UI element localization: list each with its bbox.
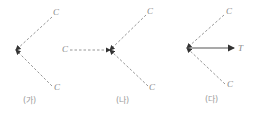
force-label-c: C — [62, 45, 68, 54]
force-label-t: T — [238, 44, 243, 53]
compression-arrow-1-1 — [110, 15, 146, 50]
force-label-c: C — [227, 80, 233, 89]
compression-arrow-2-0 — [187, 15, 224, 48]
compression-arrow-2-1 — [187, 48, 225, 84]
compression-arrow-0-1 — [16, 50, 52, 86]
force-label-c: C — [54, 83, 60, 92]
compression-arrow-1-2 — [110, 50, 148, 86]
force-label-c: C — [53, 8, 59, 17]
force-label-c: C — [226, 7, 232, 16]
caption-da: (다) — [205, 96, 218, 104]
caption-ga: (가) — [23, 97, 36, 105]
force-label-c: C — [147, 7, 153, 16]
compression-arrow-0-0 — [16, 17, 52, 50]
force-label-c: C — [149, 83, 155, 92]
caption-na: (나) — [116, 97, 129, 105]
